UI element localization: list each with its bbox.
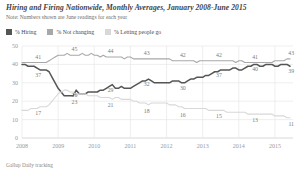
legend-item-letting-people-go[interactable]: % Letting people go	[105, 29, 161, 35]
legend-label-not-changing: % Not changing	[56, 29, 94, 35]
data-point-label: 39	[288, 68, 294, 74]
data-point-label: 26	[71, 92, 77, 98]
data-point-label: 23	[71, 99, 77, 105]
series-layer	[22, 53, 290, 117]
x-tick-label: 2009	[52, 143, 64, 149]
data-point-label: 40	[252, 66, 258, 72]
data-point-label: 11	[288, 121, 294, 127]
x-tick-label: 2010	[88, 143, 100, 149]
data-point-label: 37	[35, 72, 41, 78]
series-line	[22, 53, 290, 62]
data-point-label: 41	[35, 54, 41, 60]
data-point-label: 13	[252, 117, 258, 123]
data-point-label: 30	[180, 85, 186, 91]
legend-label-hiring: % Hiring	[15, 29, 36, 35]
chart-note: Note: Numbers shown are June readings fo…	[6, 14, 294, 20]
data-point-label: 43	[288, 50, 294, 56]
data-point-label: 42	[180, 52, 186, 58]
x-tick-label: 2015	[269, 143, 281, 149]
legend-swatch-not-changing	[47, 29, 53, 35]
chart-legend: % Hiring % Not changing % Letting people…	[6, 26, 161, 37]
grid-layer	[22, 46, 293, 138]
y-tick-label: 10	[12, 117, 18, 123]
y-tick-label: 30	[12, 80, 18, 86]
data-point-label: 44	[108, 48, 114, 54]
x-tick-label: 2014	[233, 143, 245, 149]
data-point-label: 16	[180, 112, 186, 118]
data-point-label: 21	[108, 102, 114, 108]
data-point-label: 29	[108, 87, 114, 93]
legend-item-hiring[interactable]: % Hiring	[6, 29, 36, 35]
source-note: Gallup Daily tracking	[6, 162, 53, 168]
data-point-label: 45	[71, 46, 77, 52]
data-point-labels: 3726293230374039414544434242414317232118…	[35, 46, 294, 127]
data-point-label: 42	[216, 52, 222, 58]
data-point-label: 41	[252, 54, 258, 60]
x-tick-label: 2013	[197, 143, 209, 149]
y-tick-label: 20	[12, 98, 18, 104]
x-tick-label: 2011	[125, 143, 137, 149]
legend-label-letting-people-go: % Letting people go	[114, 29, 161, 35]
plot-area: 01020304050 2008200920102011201220132014…	[0, 38, 297, 160]
x-tick-label: 2012	[161, 143, 173, 149]
legend-swatch-hiring	[6, 29, 12, 35]
page-title: Hiring and Firing Nationwide, Monthly Av…	[6, 3, 294, 12]
x-tick-label: 2008	[16, 143, 28, 149]
line-chart-svg: 01020304050 2008200920102011201220132014…	[0, 38, 297, 160]
chart-page: Hiring and Firing Nationwide, Monthly Av…	[0, 0, 297, 176]
x-axis-tick-labels: 20082009201020112012201320142015	[16, 143, 281, 149]
y-axis-tick-labels: 01020304050	[12, 43, 18, 141]
y-tick-label: 0	[15, 135, 18, 141]
data-point-label: 37	[216, 72, 222, 78]
data-point-label: 15	[216, 113, 222, 119]
y-tick-label: 40	[12, 61, 18, 67]
data-point-label: 18	[144, 108, 150, 114]
data-point-label: 17	[35, 110, 41, 116]
data-point-label: 43	[144, 50, 150, 56]
data-point-label: 32	[144, 81, 150, 87]
legend-swatch-letting-people-go	[105, 29, 111, 35]
y-tick-label: 50	[12, 43, 18, 49]
legend-item-not-changing[interactable]: % Not changing	[47, 29, 94, 35]
